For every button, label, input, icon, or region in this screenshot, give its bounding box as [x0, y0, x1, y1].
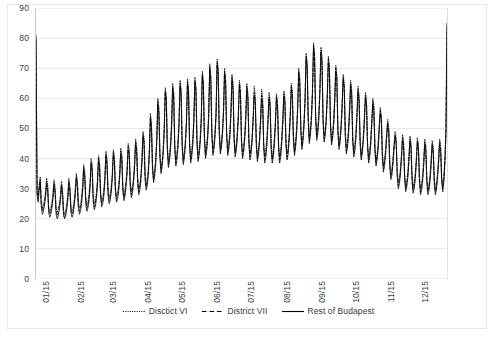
y-axis-tick-label: 70: [19, 64, 29, 73]
x-axis: 01/1502/1503/1504/1505/1506/1507/1508/15…: [35, 281, 448, 323]
y-axis: 0102030405060708090: [0, 8, 33, 279]
y-axis-tick-label: 0: [24, 275, 29, 284]
chart-legend: Disctict VIDistrict VIIRest of Budapest: [0, 306, 497, 316]
y-axis-tick-label: 20: [19, 214, 29, 223]
y-axis-tick-label: 80: [19, 34, 29, 43]
y-axis-tick-label: 30: [19, 184, 29, 193]
x-axis-tick-label: 06/15: [213, 281, 222, 303]
x-axis-tick-label: 02/15: [77, 281, 86, 303]
legend-line-icon: [282, 308, 304, 315]
x-axis-tick-label: 11/15: [387, 281, 396, 302]
legend-item[interactable]: Disctict VI: [123, 306, 188, 316]
legend-item-label: Disctict VI: [149, 306, 188, 316]
x-axis-tick-label: 03/15: [109, 281, 118, 303]
series-line: [36, 23, 447, 219]
y-axis-tick-label: 90: [19, 4, 29, 13]
x-axis-tick-label: 09/15: [318, 281, 327, 303]
x-axis-tick-label: 01/15: [42, 281, 51, 303]
y-axis-tick-label: 60: [19, 94, 29, 103]
x-axis-tick-label: 12/15: [421, 281, 430, 303]
y-axis-tick-label: 10: [19, 244, 29, 253]
legend-item-label: District VII: [228, 306, 268, 316]
x-axis-tick-label: 08/15: [283, 281, 292, 303]
x-axis-tick-label: 05/15: [178, 281, 187, 303]
legend-item[interactable]: District VII: [202, 306, 268, 316]
legend-line-icon: [202, 308, 224, 315]
legend-item-label: Rest of Budapest: [308, 306, 375, 316]
plot-svg: [36, 8, 447, 279]
legend-item[interactable]: Rest of Budapest: [282, 306, 375, 316]
legend-line-icon: [123, 308, 145, 315]
y-axis-tick-label: 40: [19, 154, 29, 163]
y-axis-tick-label: 50: [19, 124, 29, 133]
chart-container: 0102030405060708090 01/1502/1503/1504/15…: [0, 0, 497, 338]
x-axis-tick-label: 07/15: [247, 281, 256, 303]
plot-area: [35, 8, 448, 279]
x-axis-tick-label: 10/15: [352, 281, 361, 303]
x-axis-tick-label: 04/15: [144, 281, 153, 303]
